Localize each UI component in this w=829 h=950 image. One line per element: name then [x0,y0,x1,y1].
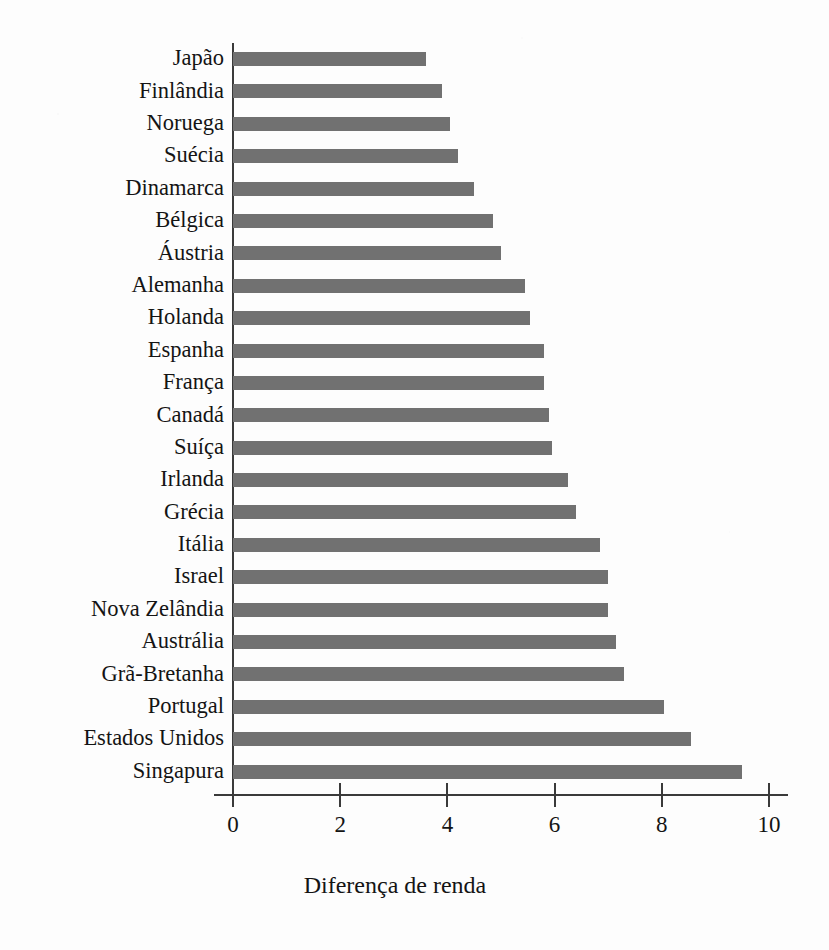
bar-row [233,43,769,75]
x-tick-mark [768,783,770,807]
x-tick-mark [446,783,448,807]
bar-row [233,529,769,561]
category-label: Espanha [0,339,224,361]
x-tick-label: 10 [739,812,799,838]
bar [233,441,552,455]
bar [233,635,616,649]
bar-row [233,691,769,723]
bar-row [233,399,769,431]
x-tick-label: 8 [632,812,692,838]
category-label: Austrália [0,630,224,652]
category-label: Portugal [0,695,224,717]
bar-row [233,496,769,528]
bar [233,376,544,390]
x-tick-mark [661,783,663,807]
bar [233,344,544,358]
bar [233,246,501,260]
x-tick-mark [554,783,556,807]
x-tick-label: 2 [310,812,370,838]
category-axis-labels: JapãoFinlândiaNoruegaSuéciaDinamarcaBélg… [0,43,224,788]
bar-row [233,626,769,658]
bar [233,117,450,131]
bar [233,505,576,519]
bar [233,149,458,163]
bar-row [233,756,769,788]
bar [233,84,442,98]
bar-row [233,270,769,302]
bar [233,538,600,552]
category-label: Áustria [0,242,224,264]
bar [233,700,664,714]
bar [233,279,525,293]
x-tick-mark [232,783,234,807]
bar-row [233,205,769,237]
bar-row [233,367,769,399]
plot-area [233,43,769,788]
bar [233,765,742,779]
category-label: Irlanda [0,468,224,490]
bar-row [233,432,769,464]
category-label: Alemanha [0,274,224,296]
category-label: Singapura [0,760,224,782]
x-tick-label: 6 [525,812,585,838]
category-label: Suécia [0,144,224,166]
bar [233,603,608,617]
bar-row [233,723,769,755]
bar-row [233,173,769,205]
category-label: França [0,371,224,393]
bar-row [233,302,769,334]
bar-row [233,335,769,367]
bar-row [233,658,769,690]
bar [233,473,568,487]
bar [233,570,608,584]
x-tick-mark [339,783,341,807]
bar-row [233,594,769,626]
bar-row [233,561,769,593]
bar [233,732,691,746]
bar-row [233,464,769,496]
x-tick-label: 0 [203,812,263,838]
x-axis-title: Diferença de renda [0,872,790,899]
category-label: Grã-Bretanha [0,663,224,685]
category-label: Israel [0,565,224,587]
category-label: Estados Unidos [0,727,224,749]
category-label: Finlândia [0,80,224,102]
bar-row [233,75,769,107]
category-label: Nova Zelândia [0,598,224,620]
category-label: Noruega [0,112,224,134]
x-tick-label: 4 [417,812,477,838]
category-label: Itália [0,533,224,555]
bar [233,182,474,196]
income-difference-bar-chart: JapãoFinlândiaNoruegaSuéciaDinamarcaBélg… [0,0,829,950]
bar [233,311,530,325]
category-label: Holanda [0,306,224,328]
bar [233,52,426,66]
bar-row [233,140,769,172]
category-label: Grécia [0,501,224,523]
bar [233,667,624,681]
category-label: Suíça [0,436,224,458]
x-axis-line [214,794,788,796]
category-label: Dinamarca [0,177,224,199]
category-label: Japão [0,47,224,69]
bar [233,408,549,422]
category-label: Canadá [0,404,224,426]
bar-row [233,108,769,140]
category-label: Bélgica [0,209,224,231]
bar [233,214,493,228]
bar-row [233,237,769,269]
